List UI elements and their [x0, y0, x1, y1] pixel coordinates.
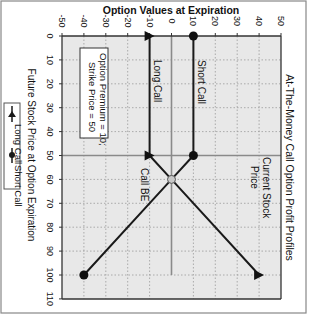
- svg-text:20: 20: [45, 79, 55, 89]
- svg-text:-20: -20: [123, 14, 133, 27]
- current-stock-annotation-2: Price: [249, 166, 260, 189]
- legend-short-call: Short Call: [13, 165, 24, 207]
- long-call-annotation: Long Call: [152, 60, 163, 102]
- svg-text:10: 10: [188, 16, 198, 26]
- svg-text:20: 20: [210, 16, 220, 26]
- svg-text:0: 0: [45, 33, 55, 38]
- value-axis-title: Option Values at Expiration: [103, 4, 240, 16]
- svg-text:80: 80: [45, 222, 55, 232]
- premium-annotation-1: Option Premium = 10;: [98, 53, 109, 146]
- svg-text:10: 10: [45, 55, 55, 65]
- svg-text:-50: -50: [57, 14, 67, 27]
- svg-text:50: 50: [45, 150, 55, 160]
- call-be-annotation: Call BE: [139, 168, 150, 202]
- svg-text:40: 40: [254, 16, 264, 26]
- legend-circle-icon: [9, 152, 15, 158]
- svg-text:-30: -30: [101, 14, 111, 27]
- svg-text:90: 90: [45, 246, 55, 256]
- legend-long-call: Long Call: [13, 124, 24, 164]
- chart-title: At-The-Money Call Option Profit Profiles: [284, 74, 296, 261]
- svg-text:0: 0: [167, 18, 177, 23]
- svg-text:-40: -40: [79, 14, 89, 27]
- svg-text:30: 30: [232, 16, 242, 26]
- svg-text:-10: -10: [145, 14, 155, 27]
- svg-text:100: 100: [45, 267, 55, 282]
- svg-text:60: 60: [45, 174, 55, 184]
- short-call-annotation: Short Call: [196, 60, 207, 104]
- current-stock-annotation-1: Current Stock: [261, 157, 272, 219]
- premium-annotation-2: Strike Price = 50: [87, 62, 98, 132]
- option-profit-chart: -50-40-30-20-100102030405001020304050607…: [0, 0, 309, 317]
- breakeven-marker: [168, 175, 176, 183]
- svg-text:40: 40: [45, 127, 55, 137]
- svg-text:30: 30: [45, 103, 55, 113]
- svg-text:110: 110: [45, 292, 55, 306]
- svg-text:50: 50: [276, 16, 286, 26]
- svg-text:70: 70: [45, 198, 55, 208]
- price-axis-title: Future Stock Price at Option Expiration: [26, 69, 37, 242]
